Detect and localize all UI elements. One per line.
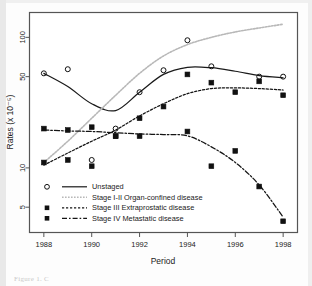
data-point-filled-square	[233, 148, 238, 153]
y-axis-ticks: 51050100	[18, 31, 30, 209]
data-point-filled-square	[41, 126, 46, 131]
data-point-filled-square	[257, 79, 262, 84]
x-tick-label: 1992	[131, 240, 148, 249]
data-point-filled-square	[41, 160, 46, 165]
y-tick-label: 100	[18, 31, 27, 44]
legend-label-1: Stage I-II Organ-confined disease	[92, 193, 203, 202]
data-point-filled-square	[209, 164, 214, 169]
y-tick-label: 10	[18, 164, 27, 172]
data-point-filled-square	[161, 104, 166, 109]
data-point-filled-square	[89, 125, 94, 130]
x-tick-label: 1988	[36, 240, 53, 249]
legend-label-3: Stage IV Metastatic disease	[92, 214, 184, 223]
figure-caption: Figure 1. C	[14, 275, 134, 284]
data-point-filled-square	[137, 134, 142, 139]
x-tick-label: 1998	[275, 240, 292, 249]
data-point-filled-square	[65, 128, 70, 133]
data-point-filled-square	[233, 90, 238, 95]
legend-label-0: Unstaged	[92, 182, 124, 191]
legend-marker-filled-square	[45, 216, 50, 221]
legend-marker-filled-square	[45, 206, 50, 211]
data-point-filled-square	[209, 80, 214, 85]
x-axis-ticks: 198819901992199419961998	[36, 233, 292, 249]
data-point-filled-square	[65, 158, 70, 163]
figure-container: 51050100 198819901992199419961998 Unstag…	[0, 0, 312, 286]
data-point-filled-square	[137, 116, 142, 121]
legend-label-2: Stage III Extraprostatic disease	[92, 203, 194, 212]
x-tick-label: 1994	[179, 240, 196, 249]
x-tick-label: 1990	[83, 240, 100, 249]
data-point-filled-square	[113, 134, 118, 139]
data-point-filled-square	[281, 219, 286, 224]
data-point-filled-square	[185, 129, 190, 134]
x-tick-label: 1996	[227, 240, 244, 249]
data-point-filled-square	[185, 72, 190, 77]
y-tick-label: 5	[18, 205, 27, 209]
y-axis-label: Rates (x 10⁻⁵)	[5, 94, 15, 149]
rates-by-stage-chart: 51050100 198819901992199419961998 Unstag…	[0, 0, 312, 286]
x-axis-label: Period	[151, 256, 176, 266]
data-point-filled-square	[281, 93, 286, 98]
y-tick-label: 50	[18, 72, 27, 80]
data-point-filled-square	[257, 184, 262, 189]
data-point-filled-square	[89, 164, 94, 169]
